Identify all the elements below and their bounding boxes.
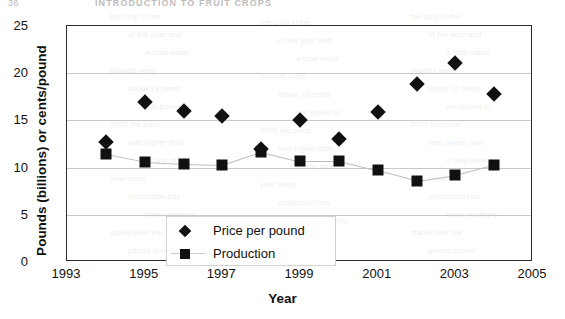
data-point-1996-10.4 [178, 158, 189, 169]
data-point-2000-10.7 [333, 155, 344, 166]
data-point-2002-18.9 [409, 76, 425, 92]
x-tick-label-1995: 1995 [129, 266, 158, 281]
y-axis-title: Pounds (billions) or cents/pound [34, 26, 49, 276]
data-point-2001-15.9 [370, 104, 386, 120]
data-point-2000-13 [331, 131, 347, 147]
y-tick-label-25: 25 [4, 18, 28, 33]
data-point-2003-21.1 [448, 55, 464, 71]
x-tick-label-1993: 1993 [52, 266, 81, 281]
data-point-1997-10.3 [217, 159, 228, 170]
gridline-10 [67, 168, 531, 169]
data-point-2004-17.8 [486, 86, 502, 102]
data-point-1999-15 [292, 113, 308, 129]
x-tick-label-1997: 1997 [207, 266, 236, 281]
legend-item-price: Price per pound [167, 219, 335, 243]
legend-label-production: Production [213, 242, 275, 266]
x-tick-label-2005: 2005 [518, 266, 547, 281]
diamond-marker-icon [179, 225, 192, 238]
square-marker-icon [180, 249, 190, 259]
data-point-1999-10.7 [295, 155, 306, 166]
x-tick-label-2003: 2003 [440, 266, 469, 281]
data-point-1996-16 [176, 103, 192, 119]
data-point-2001-9.7 [372, 165, 383, 176]
x-tick-label-2001: 2001 [362, 266, 391, 281]
data-point-2004-10.3 [489, 159, 500, 170]
data-point-1995-17 [137, 94, 153, 110]
y-tick-label-15: 15 [4, 112, 28, 127]
gridline-20 [67, 73, 531, 74]
x-axis-title: Year [0, 291, 565, 306]
legend-item-production: Production [167, 242, 335, 266]
y-tick-label-10: 10 [4, 159, 28, 174]
data-point-2002-8.6 [411, 175, 422, 186]
y-tick-label-20: 20 [4, 65, 28, 80]
data-point-2003-9.2 [450, 170, 461, 181]
chart-legend: Price per pound Production [166, 216, 336, 266]
y-tick-label-5: 5 [4, 206, 28, 221]
data-point-1994-11.4 [100, 149, 111, 160]
x-tick-label-1999: 1999 [285, 266, 314, 281]
plot-area: Price per pound Production [66, 25, 532, 261]
data-point-1995-10.6 [139, 156, 150, 167]
data-point-1994-12.7 [98, 134, 114, 150]
legend-label-price: Price per pound [213, 219, 305, 243]
chart-figure: Pounds (billions) or cents/pound 0510152… [0, 0, 565, 319]
y-tick-label-0: 0 [4, 254, 28, 269]
